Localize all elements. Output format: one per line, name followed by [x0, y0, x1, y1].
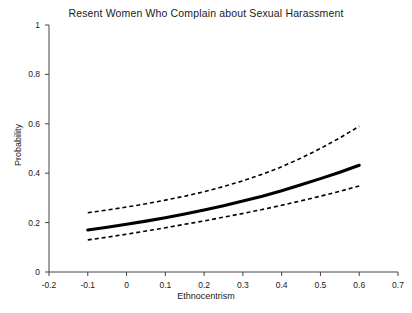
x-tick-label: -0.1 — [80, 280, 95, 290]
y-tick-label: 1 — [8, 20, 40, 30]
x-tick-label: 0.4 — [276, 280, 288, 290]
chart-figure: Resent Women Who Complain about Sexual H… — [0, 0, 412, 313]
y-tick-label: 0.2 — [8, 218, 40, 228]
x-tick-label: 0.3 — [237, 280, 249, 290]
upper-confidence-line — [88, 126, 359, 212]
x-axis-ticks — [49, 272, 398, 276]
x-tick-label: 0.2 — [198, 280, 210, 290]
x-tick-label: 0 — [124, 280, 129, 290]
plot-canvas — [0, 0, 412, 313]
lower-confidence-line — [88, 186, 359, 240]
x-tick-label: 0.1 — [159, 280, 171, 290]
x-tick-label: -0.2 — [42, 280, 57, 290]
data-series-group — [88, 126, 359, 240]
y-tick-label: 0.6 — [8, 119, 40, 129]
y-axis-ticks — [45, 25, 49, 272]
y-tick-label: 0.8 — [8, 69, 40, 79]
x-tick-label: 0.5 — [315, 280, 327, 290]
axes-group — [49, 25, 398, 272]
x-tick-label: 0.7 — [392, 280, 404, 290]
predicted-probability-line — [88, 165, 359, 230]
y-tick-label: 0 — [8, 267, 40, 277]
y-tick-label: 0.4 — [8, 168, 40, 178]
x-tick-label: 0.6 — [353, 280, 365, 290]
